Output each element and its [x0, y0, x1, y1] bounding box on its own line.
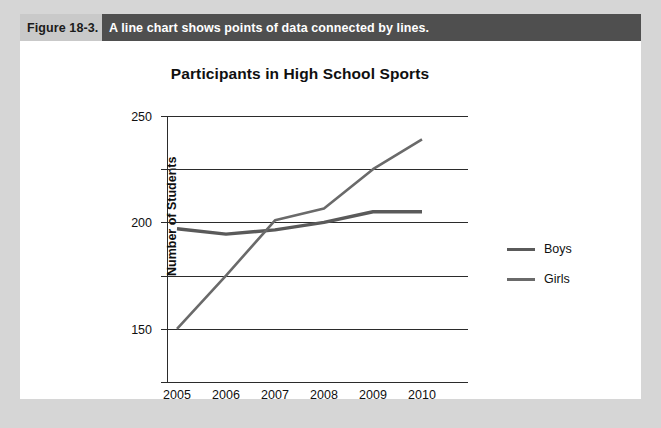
gridline — [167, 382, 468, 383]
line-chart: Participants in High School Sports Numbe… — [20, 41, 641, 399]
chart-legend: BoysGirls — [507, 234, 572, 294]
legend-label: Girls — [544, 272, 570, 286]
figure-caption-bar: Figure 18-3. A line chart shows points o… — [20, 14, 641, 41]
y-axis-tick: 0 — [161, 382, 167, 383]
x-axis-tick-label: 2007 — [261, 388, 289, 402]
plot-area: Number of Students 050100150200250 20052… — [167, 116, 468, 382]
x-axis-tick-label: 2008 — [310, 388, 338, 402]
y-axis-tick-label: 250 — [131, 110, 152, 124]
chart-title: Participants in High School Sports — [20, 65, 580, 83]
series-lines — [167, 116, 468, 382]
legend-swatch-girls — [507, 278, 535, 281]
page-content: Figure 18-3. A line chart shows points o… — [20, 14, 641, 399]
y-axis-tick-label: 150 — [131, 323, 152, 337]
legend-item-girls: Girls — [507, 264, 572, 294]
x-axis-tick-label: 2009 — [359, 388, 387, 402]
x-axis-tick-label: 2010 — [408, 388, 436, 402]
x-axis-tick-label: 2006 — [212, 388, 240, 402]
figure-number-label: Figure 18-3. — [20, 14, 102, 41]
legend-label: Boys — [544, 242, 572, 256]
figure-caption-text: A line chart shows points of data connec… — [102, 14, 641, 41]
legend-item-boys: Boys — [507, 234, 572, 264]
legend-swatch-boys — [507, 248, 535, 251]
figure-page: Figure 18-3. A line chart shows points o… — [0, 0, 661, 428]
y-axis-tick-label: 200 — [131, 216, 152, 230]
x-axis-tick-label: 2005 — [163, 388, 191, 402]
